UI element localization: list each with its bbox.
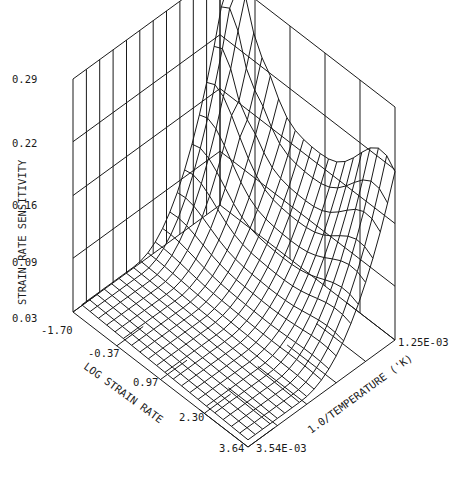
z-tick-label: 0.29 (12, 73, 37, 85)
x-tick-label: -0.37 (88, 347, 120, 359)
z-tick-label: 0.22 (12, 137, 37, 149)
x-tick-label: 3.64 (219, 442, 244, 454)
z-axis-title: STRAIN RATE SENSITIVITY (16, 159, 28, 305)
y-tick-label: 3.54E-03 (256, 442, 307, 454)
x-tick-label: 0.97 (133, 376, 158, 388)
x-tick-label: -1.70 (41, 324, 73, 336)
x-axis-title: LOG STRAIN RATE (82, 360, 166, 425)
z-tick-label: 0.03 (12, 312, 37, 324)
x-tick-label: 2.30 (179, 411, 204, 423)
plot-canvas: 0.29 0.22 0.16 0.09 0.03 STRAIN RATE SEN… (0, 0, 465, 486)
y-tick-label: 1.25E-03 (398, 336, 449, 348)
surface-plot-3d: 0.29 0.22 0.16 0.09 0.03 STRAIN RATE SEN… (0, 0, 465, 486)
